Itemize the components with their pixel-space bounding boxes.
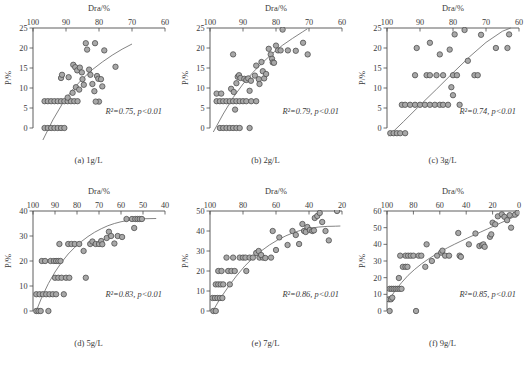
- data-point: [46, 308, 51, 313]
- y-tick-label: 50: [196, 207, 204, 216]
- y-tick-label: 25: [196, 24, 204, 33]
- data-point: [437, 52, 442, 57]
- stat-annotation: R²=0.75, p<0.01: [104, 107, 162, 116]
- data-point: [62, 125, 67, 130]
- y-tick-label: 40: [196, 227, 204, 236]
- data-point: [326, 238, 331, 243]
- data-point: [98, 77, 103, 82]
- data-point: [93, 99, 98, 104]
- data-point: [305, 52, 310, 57]
- x-tick-label: 60: [515, 18, 523, 27]
- y-tick-label: 0: [377, 124, 381, 133]
- data-point: [440, 73, 445, 78]
- data-point: [311, 228, 316, 233]
- data-point: [478, 32, 483, 37]
- panel-b: Dra/%100908070600510152025P/%R²=0.79, p<…: [177, 0, 354, 183]
- stat-annotation: R²=0.85, p<0.01: [458, 290, 516, 299]
- data-point: [263, 255, 268, 260]
- y-tick-label: 20: [19, 44, 27, 53]
- y-tick-label: 5: [23, 104, 27, 113]
- y-tick-label: 30: [196, 247, 204, 256]
- x-tick-label: 80: [272, 18, 280, 27]
- data-point: [232, 107, 237, 112]
- panel-caption: (d) 5g/L: [74, 338, 102, 348]
- x-tick-label: 100: [27, 201, 39, 210]
- data-point: [139, 216, 144, 221]
- stat-annotation: R²=0.86, p<0.01: [281, 290, 339, 299]
- data-point: [450, 93, 455, 98]
- x-tick-label: 70: [305, 18, 313, 27]
- data-point: [396, 275, 401, 280]
- data-point: [493, 222, 498, 227]
- data-point: [220, 295, 225, 300]
- x-tick-label: 60: [161, 18, 169, 27]
- data-point: [280, 27, 285, 32]
- data-point: [230, 52, 235, 57]
- y-tick-label: 30: [19, 232, 27, 241]
- x-tick-label: 60: [436, 201, 444, 210]
- data-point: [254, 63, 259, 68]
- data-point: [81, 248, 86, 253]
- data-point: [79, 70, 84, 75]
- x-tick-label: 20: [338, 201, 346, 210]
- data-point: [132, 225, 137, 230]
- data-point: [77, 241, 82, 246]
- x-tick-label: 100: [204, 18, 216, 27]
- y-tick-label: 5: [200, 104, 204, 113]
- x-tick-label: 80: [239, 201, 247, 210]
- data-point: [248, 78, 253, 83]
- data-point: [70, 90, 75, 95]
- data-point: [398, 253, 403, 258]
- data-point: [227, 282, 232, 287]
- data-point: [266, 46, 271, 51]
- data-point: [507, 212, 512, 217]
- data-point: [66, 75, 71, 80]
- y-tick-label: 0: [23, 307, 27, 316]
- data-point: [219, 91, 224, 96]
- data-point: [75, 99, 80, 104]
- panel-caption: (c) 3g/L: [429, 155, 457, 165]
- data-point: [278, 48, 283, 53]
- x-axis-title: Dra/%: [265, 187, 287, 196]
- data-point: [454, 73, 459, 78]
- panel-caption: (b) 2g/L: [251, 155, 279, 165]
- data-point: [412, 73, 417, 78]
- stat-annotation: R²=0.74, p<0.01: [458, 107, 516, 116]
- y-tick-label: 15: [19, 64, 27, 73]
- y-tick-label: 25: [19, 24, 27, 33]
- data-point: [271, 60, 276, 65]
- data-point: [270, 228, 275, 233]
- data-point: [458, 254, 463, 259]
- y-tick-label: 60: [373, 207, 381, 216]
- data-point: [293, 232, 298, 237]
- data-point: [67, 275, 72, 280]
- data-point: [462, 27, 467, 32]
- data-point: [237, 125, 242, 130]
- data-point: [424, 242, 429, 247]
- data-point: [232, 268, 237, 273]
- data-point: [112, 241, 117, 246]
- y-tick-label: 0: [200, 307, 204, 316]
- data-point: [482, 244, 487, 249]
- data-point: [445, 102, 450, 107]
- y-axis-title: P/%: [4, 71, 13, 85]
- data-point: [263, 71, 268, 76]
- data-point: [58, 258, 63, 263]
- data-point: [300, 221, 305, 226]
- data-point: [465, 58, 470, 63]
- data-point: [446, 253, 451, 258]
- data-point: [296, 241, 301, 246]
- data-point: [423, 264, 428, 269]
- y-tick-label: 10: [19, 84, 27, 93]
- data-point: [300, 40, 305, 45]
- y-tick-label: 10: [373, 84, 381, 93]
- panel-e: Dra/%1008060402001020304050P/%R²=0.86, p…: [177, 183, 354, 366]
- data-point: [92, 41, 97, 46]
- panel-caption: (e) 7g/L: [252, 338, 280, 348]
- x-tick-label: 60: [272, 201, 280, 210]
- x-tick-label: 70: [482, 18, 490, 27]
- data-point: [320, 219, 325, 224]
- panel-caption: (f) 9g/L: [429, 338, 456, 348]
- data-point: [86, 67, 91, 72]
- data-point: [515, 210, 520, 215]
